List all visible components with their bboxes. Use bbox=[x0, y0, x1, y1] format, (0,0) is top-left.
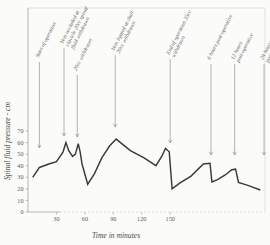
y-tick-label: 20 bbox=[17, 185, 23, 192]
x-axis-title: Time in minutes bbox=[92, 231, 140, 240]
x-tick-label: 120 bbox=[137, 215, 146, 222]
x-tick-label: 30 bbox=[53, 215, 59, 222]
chart-svg: 010203040506070 306090120150 Start of op… bbox=[0, 0, 270, 245]
y-tick-label: 50 bbox=[17, 150, 23, 157]
y-tick-label: 60 bbox=[17, 139, 23, 146]
y-tick-label: 30 bbox=[17, 173, 23, 180]
y-axis-title: Spinal fluid pressure - cm bbox=[3, 102, 12, 180]
chart-figure: 010203040506070 306090120150 Start of op… bbox=[0, 0, 270, 245]
y-tick-label: 0 bbox=[20, 208, 23, 215]
y-tick-label: 10 bbox=[17, 197, 23, 204]
y-tick-label: 70 bbox=[17, 127, 23, 134]
x-tick-label: 60 bbox=[82, 215, 88, 222]
x-tick-label: 150 bbox=[166, 215, 175, 222]
y-tick-label: 40 bbox=[17, 162, 23, 169]
x-tick-label: 90 bbox=[110, 215, 116, 222]
figure-background bbox=[0, 0, 270, 245]
